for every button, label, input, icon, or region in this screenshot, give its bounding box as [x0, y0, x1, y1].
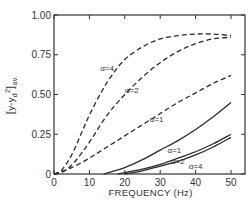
- curve-label: α=4: [100, 64, 114, 73]
- y-axis-label: [y-yd2]av.: [4, 76, 18, 114]
- series-line-solid-3: [104, 102, 231, 174]
- x-tick-label: 50: [225, 177, 237, 188]
- x-tick-label: 10: [84, 177, 96, 188]
- curve-label: α=4: [189, 162, 203, 171]
- series-line-dashed-0: [54, 34, 231, 174]
- x-axis-label: FREQUENCY (Hz): [108, 187, 192, 198]
- curve-label: α=2: [125, 86, 139, 95]
- chart: 0102030405000.250.500.751.00FREQUENCY (H…: [0, 0, 252, 202]
- y-tick-label: 0: [45, 169, 51, 180]
- series-line-dashed-1: [54, 37, 231, 174]
- y-tick-label: 0.25: [32, 129, 52, 140]
- curve-label: α=1: [150, 115, 164, 124]
- x-tick-label: 0: [51, 177, 57, 188]
- y-axis-label-text: [y-yd2]av.: [4, 76, 18, 114]
- curve-label: α=2: [171, 157, 185, 166]
- y-tick-label: 0.50: [32, 89, 52, 100]
- y-tick-label: 1.00: [32, 10, 52, 21]
- curve-label: α=1: [167, 146, 181, 155]
- y-tick-label: 0.75: [32, 49, 52, 60]
